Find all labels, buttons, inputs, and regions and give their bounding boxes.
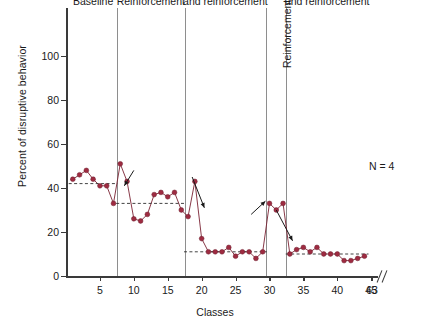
data-point [118, 161, 123, 166]
data-point [287, 252, 292, 257]
chart-figure: Percent of disruptive behavior Classes N… [0, 0, 430, 331]
data-point [328, 252, 333, 257]
data-point [301, 245, 306, 250]
data-point [98, 183, 103, 188]
data-point [294, 247, 299, 252]
x-tick-label: 35 [298, 284, 310, 296]
data-point [281, 201, 286, 206]
y-tick [61, 276, 66, 277]
x-tick [372, 276, 373, 281]
x-tick-label: 20 [196, 284, 208, 296]
data-point [172, 190, 177, 195]
data-point [233, 254, 238, 259]
data-point [111, 201, 116, 206]
data-point [342, 258, 347, 263]
data-point [254, 256, 259, 261]
x-axis-line [66, 276, 378, 278]
data-point [362, 254, 367, 259]
data-point [131, 216, 136, 221]
x-tick-label: 10 [128, 284, 140, 296]
x-tick-label: 5 [97, 284, 103, 296]
data-point [179, 208, 184, 213]
x-tick [168, 276, 169, 281]
x-tick-label: 25 [230, 284, 242, 296]
data-point [348, 258, 353, 263]
plot-area: 020406080100 5101520253035404563 [66, 34, 378, 276]
data-point [247, 249, 252, 254]
y-tick-label: 20 [47, 226, 59, 238]
data-point [240, 249, 245, 254]
phase-label-3: Time-out ribbon and reinforcement [170, 0, 280, 7]
y-tick-label: 40 [47, 182, 59, 194]
data-point [152, 192, 157, 197]
data-point [213, 249, 218, 254]
x-tick-label: 30 [264, 284, 276, 296]
x-tick-label: 40 [331, 284, 343, 296]
data-point [84, 168, 89, 173]
data-point [145, 212, 150, 217]
y-tick-label: 0 [53, 270, 59, 282]
data-point [355, 256, 360, 261]
x-tick [100, 276, 101, 281]
x-tick-label: 15 [162, 284, 174, 296]
data-point [104, 183, 109, 188]
data-point [77, 172, 82, 177]
y-tick-label: 60 [47, 138, 59, 150]
data-point [335, 252, 340, 257]
data-point [267, 201, 272, 206]
data-point [321, 252, 326, 257]
data-point [199, 236, 204, 241]
data-point [165, 194, 170, 199]
x-tick [269, 276, 270, 281]
x-tick [134, 276, 135, 281]
data-point [308, 249, 313, 254]
data-point [220, 249, 225, 254]
data-series-layer [66, 34, 378, 276]
data-point [70, 177, 75, 182]
data-point [159, 190, 164, 195]
y-tick-label: 100 [41, 50, 59, 62]
data-line [73, 164, 365, 261]
data-point [91, 177, 96, 182]
data-point [260, 249, 265, 254]
data-point [186, 214, 191, 219]
phase-label-5: Time-out ribbon and reinforcement [272, 0, 382, 7]
x-tick [303, 276, 304, 281]
arrow-reinforcement-to-timeout [192, 177, 204, 208]
y-tick-label: 80 [47, 94, 59, 106]
data-point [226, 245, 231, 250]
x-tick [337, 276, 338, 281]
y-axis-title: Percent of disruptive behavior [16, 16, 28, 216]
data-point [138, 219, 143, 224]
x-tick [236, 276, 237, 281]
data-point [206, 249, 211, 254]
x-tick [202, 276, 203, 281]
x-tick-label: 63 [366, 284, 378, 296]
data-point [315, 245, 320, 250]
x-axis-title: Classes [0, 306, 430, 318]
phase-label-4: Reinforcement [281, 0, 294, 68]
